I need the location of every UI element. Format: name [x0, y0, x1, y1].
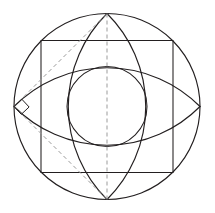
geometry-diagram: [0, 0, 215, 213]
diagonal-upper-left-dashed: [14, 14, 107, 107]
right-angle-marker: [14, 99, 29, 114]
arc-from-left: [68, 14, 107, 200]
figure-root: [0, 0, 215, 213]
arc-from-right: [107, 14, 146, 200]
diagonal-lower-left-dashed: [14, 107, 107, 200]
